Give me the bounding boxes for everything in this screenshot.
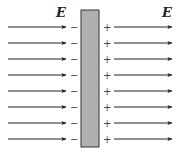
negative-charge-sign: −: [70, 134, 78, 145]
negative-charge-sign: −: [70, 102, 78, 113]
positive-charge-sign: +: [103, 38, 111, 49]
positive-charge-sign: +: [103, 70, 111, 81]
positive-surface-charges: ++++++++: [103, 22, 111, 145]
negative-surface-charges: −−−−−−−−: [70, 22, 78, 145]
diagram-canvas: E E −−−−−−−− ++++++++: [0, 0, 182, 153]
incoming-field-lines: [8, 27, 66, 139]
conductor-slab: [81, 10, 99, 147]
negative-charge-sign: −: [70, 54, 78, 65]
negative-charge-sign: −: [70, 22, 78, 33]
outgoing-field-lines: [114, 27, 172, 139]
negative-charge-sign: −: [70, 118, 78, 129]
negative-charge-sign: −: [70, 70, 78, 81]
positive-charge-sign: +: [103, 86, 111, 97]
negative-charge-sign: −: [70, 38, 78, 49]
positive-charge-sign: +: [103, 54, 111, 65]
negative-charge-sign: −: [70, 86, 78, 97]
field-label-right: E: [161, 5, 173, 20]
field-label-left: E: [55, 5, 67, 20]
positive-charge-sign: +: [103, 102, 111, 113]
positive-charge-sign: +: [103, 118, 111, 129]
positive-charge-sign: +: [103, 22, 111, 33]
positive-charge-sign: +: [103, 134, 111, 145]
